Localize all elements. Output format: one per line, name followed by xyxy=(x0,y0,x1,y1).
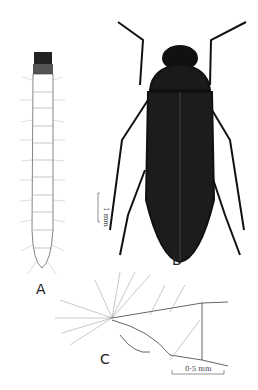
scale-bar-c-label: 0·5 mm xyxy=(185,365,212,373)
larva-illustration xyxy=(20,52,65,274)
apex-illustration xyxy=(55,272,228,366)
panel-label-c: C xyxy=(100,351,110,367)
beetle-illustration xyxy=(110,22,246,262)
scale-bar-b-label: 1 mm xyxy=(102,207,110,227)
scale-bar-b xyxy=(98,193,100,222)
scientific-figure: 1 mm xyxy=(0,0,258,390)
panel-label-a: A xyxy=(36,281,46,297)
panel-label-b: B xyxy=(172,252,182,268)
